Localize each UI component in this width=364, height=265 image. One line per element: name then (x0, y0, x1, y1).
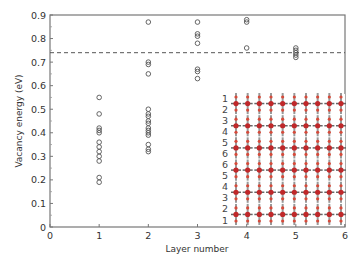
inset-layer-label: 4 (222, 181, 228, 192)
data-point (146, 107, 151, 112)
y-tick-label: 0.1 (31, 198, 46, 209)
inset-structure-image: 123456654321 (220, 93, 346, 226)
data-point (146, 72, 151, 77)
data-point (97, 145, 102, 150)
inset-layer-label: 1 (222, 93, 228, 104)
x-axis-title: Layer number (165, 244, 228, 254)
x-tick-label: 2 (145, 230, 151, 241)
inset-layer-label: 3 (222, 192, 228, 203)
data-point (97, 140, 102, 145)
data-point (97, 154, 102, 159)
inset-layer-label: 6 (222, 148, 228, 159)
y-tick-label: 0.9 (31, 10, 46, 21)
scatter-chart: 00.10.20.30.40.50.60.70.80.90123456 1234… (0, 0, 364, 265)
data-point (146, 142, 151, 147)
inset-layer-label: 2 (222, 104, 228, 115)
y-tick-label: 0 (40, 222, 46, 233)
y-tick-label: 0.7 (31, 57, 46, 68)
data-point (195, 41, 200, 46)
data-point (195, 20, 200, 25)
inset-layer-label: 2 (222, 203, 228, 214)
data-point (97, 175, 102, 180)
data-point (244, 46, 249, 51)
y-tick-label: 0.3 (31, 151, 46, 162)
inset-layer-label: 5 (222, 170, 228, 181)
inset-layer-label: 6 (222, 159, 228, 170)
inset-layer-label: 4 (222, 126, 228, 137)
data-point (146, 20, 151, 25)
y-tick-label: 0.2 (31, 174, 46, 185)
data-point (97, 159, 102, 164)
y-tick-label: 0.5 (31, 104, 46, 115)
x-tick-label: 3 (194, 230, 200, 241)
data-point (97, 180, 102, 185)
inset-layer-label: 1 (222, 215, 228, 226)
data-point (97, 149, 102, 154)
data-point (97, 112, 102, 117)
y-tick-label: 0.8 (31, 33, 46, 44)
x-tick-label: 1 (96, 230, 102, 241)
x-tick-label: 0 (47, 230, 53, 241)
inset-layer-label: 5 (222, 137, 228, 148)
y-axis-title: Vacancy energy (eV) (14, 74, 24, 167)
y-tick-label: 0.4 (31, 127, 46, 138)
x-tick-label: 6 (342, 230, 348, 241)
y-tick-label: 0.6 (31, 80, 46, 91)
data-point (97, 95, 102, 100)
x-tick-label: 5 (293, 230, 299, 241)
data-point (195, 76, 200, 81)
x-tick-label: 4 (244, 230, 250, 241)
inset-layer-label: 3 (222, 115, 228, 126)
